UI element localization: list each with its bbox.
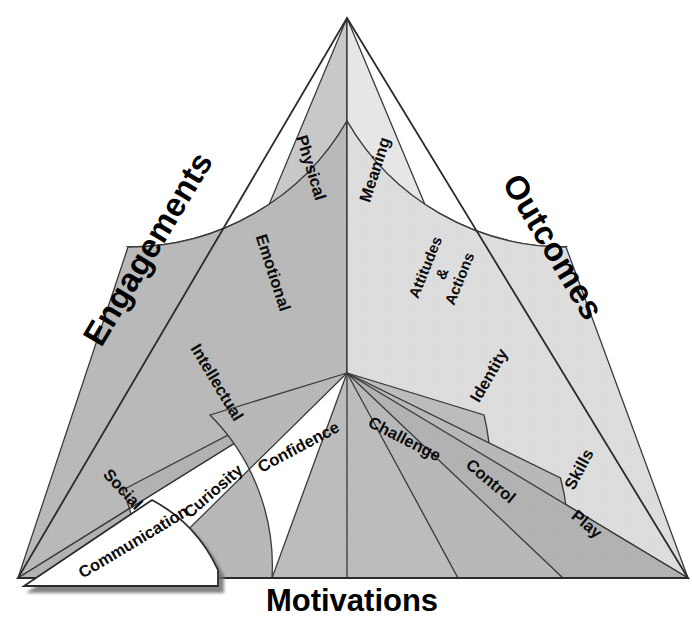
triangle-model-svg: Physical Meaning Emotional Attitudes & A… <box>0 0 692 620</box>
diagram-canvas: Physical Meaning Emotional Attitudes & A… <box>0 0 692 620</box>
corner-label-motivations: Motivations <box>266 583 438 618</box>
